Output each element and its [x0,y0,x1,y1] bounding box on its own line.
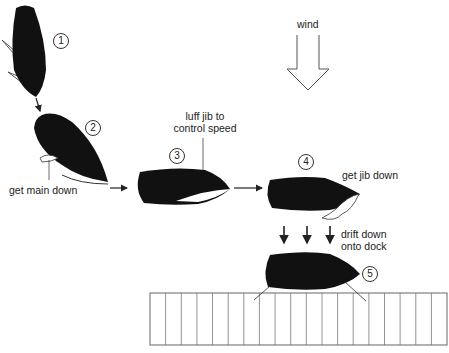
wind-arrow-icon [287,35,329,90]
docking-diagram: wind 1 2 get main down luff jib to contr… [0,0,449,353]
drift-arrows [284,226,330,243]
step-5-badge: 5 [362,266,378,282]
arrow-1-to-2 [36,98,40,111]
boat-step-4-icon [267,177,360,219]
boat-step-3-icon [138,168,230,204]
step-3-label: luff jib to control speed [170,110,240,134]
dock [150,293,447,345]
step-5-label-line-2: onto dock [341,240,387,252]
step-3-label-line-1: luff jib to [170,110,240,122]
step-5-label-line-1: drift down [341,228,387,240]
boat-step-1-icon [2,6,46,98]
wind-label: wind [297,18,319,30]
step-4-badge: 4 [298,154,314,170]
step-2-badge: 2 [85,120,101,136]
step-3-badge: 3 [169,148,185,164]
step-2-label: get main down [9,184,77,196]
step-3-label-line-2: control speed [170,122,240,134]
step-4-label: get jib down [342,169,398,181]
step-1-badge: 1 [53,33,69,49]
step-5-label: drift down onto dock [341,228,387,252]
